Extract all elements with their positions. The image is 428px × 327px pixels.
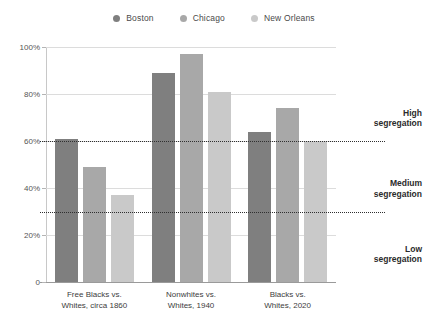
x-axis-labels: Free Blacks vs. Whites, circa 1860Nonwhi… — [46, 289, 336, 321]
bar-new-orleans-group-2 — [208, 92, 231, 282]
legend-swatch-new-orleans — [251, 15, 258, 22]
x-axis-category-label: Nonwhites vs. Whites, 1940 — [143, 289, 240, 311]
y-tick-label: 80% — [24, 90, 40, 99]
annotation-medium-segregation: Medium segregation — [336, 178, 422, 199]
x-axis-category-label: Free Blacks vs. Whites, circa 1860 — [46, 289, 143, 311]
y-axis-line — [46, 47, 47, 282]
bar-boston-group-3 — [248, 132, 271, 282]
legend-label-chicago: Chicago — [193, 13, 225, 23]
y-axis-labels: 100%80%60%40%20%0 — [10, 47, 40, 282]
chart-legend: Boston Chicago New Orleans — [0, 13, 428, 23]
legend-swatch-boston — [113, 15, 120, 22]
y-tick-mark — [42, 188, 46, 189]
threshold-line-30 — [40, 212, 385, 213]
bar-chicago-group-2 — [180, 54, 203, 282]
y-tick-mark — [42, 235, 46, 236]
segregation-bar-chart: Boston Chicago New Orleans 100%80%60%40%… — [0, 0, 428, 327]
bar-chicago-group-3 — [276, 108, 299, 282]
threshold-line-60 — [40, 141, 385, 142]
annotation-low-segregation: Low segregation — [336, 244, 422, 265]
y-tick-label: 60% — [24, 137, 40, 146]
legend-label-boston: Boston — [126, 13, 153, 23]
gridline — [46, 47, 336, 48]
x-axis-line — [40, 282, 336, 283]
y-tick-label: 100% — [20, 43, 40, 52]
y-tick-label: 40% — [24, 184, 40, 193]
plot-area — [46, 47, 336, 282]
legend-item-chicago: Chicago — [180, 13, 225, 23]
bar-boston-group-2 — [152, 73, 175, 282]
y-tick-label: 20% — [24, 231, 40, 240]
legend-item-new-orleans: New Orleans — [251, 13, 315, 23]
legend-swatch-chicago — [180, 15, 187, 22]
x-axis-category-label: Blacks vs. Whites, 2020 — [239, 289, 336, 311]
y-tick-mark — [42, 47, 46, 48]
bar-boston-group-1 — [55, 139, 78, 282]
y-tick-mark — [42, 94, 46, 95]
bar-new-orleans-group-1 — [111, 195, 134, 282]
y-tick-mark — [42, 282, 46, 283]
annotation-high-segregation: High segregation — [336, 108, 422, 129]
bar-chicago-group-1 — [83, 167, 106, 282]
legend-label-new-orleans: New Orleans — [264, 13, 315, 23]
legend-item-boston: Boston — [113, 13, 153, 23]
